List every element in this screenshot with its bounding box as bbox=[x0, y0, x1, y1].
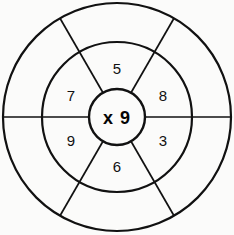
spoke-upper-right bbox=[131, 18, 174, 93]
segment-label-lower-right: 3 bbox=[159, 132, 167, 149]
segment-label-upper-right: 8 bbox=[159, 87, 167, 104]
segment-label-upper-left: 7 bbox=[67, 87, 75, 104]
segment-label-top: 5 bbox=[113, 60, 121, 77]
segment-label-lower-left: 9 bbox=[67, 132, 75, 149]
hub-multiplier-label: x 9 bbox=[103, 108, 131, 128]
segment-label-bottom: 6 bbox=[113, 158, 121, 175]
multiplication-wheel-diagram: 5 8 3 6 9 7 x 9 bbox=[0, 0, 234, 235]
wheel-canvas: 5 8 3 6 9 7 x 9 bbox=[0, 0, 234, 235]
spoke-upper-left bbox=[60, 18, 103, 93]
spoke-lower-right bbox=[131, 141, 174, 216]
spoke-lower-left bbox=[60, 141, 103, 216]
